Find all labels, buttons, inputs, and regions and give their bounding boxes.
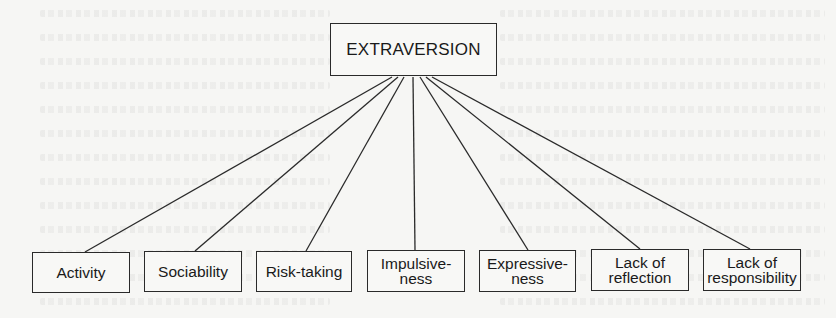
connector-line xyxy=(420,77,528,250)
child-node-impulsiveness: Impulsive- ness xyxy=(367,250,465,292)
child-node-label: Lack of reflection xyxy=(609,255,672,285)
root-node-extraversion: EXTRAVERSION xyxy=(330,23,497,76)
connector-line xyxy=(413,77,415,250)
child-node-label: Activity xyxy=(56,265,105,280)
child-node-label: Sociability xyxy=(158,264,228,279)
child-node-activity: Activity xyxy=(32,252,130,293)
child-node-label: Expressive- ness xyxy=(487,256,568,286)
connector-line xyxy=(426,77,640,249)
connector-line xyxy=(306,77,404,251)
child-node-risk-taking: Risk-taking xyxy=(256,251,352,292)
child-node-label: Lack of responsibility xyxy=(707,255,797,285)
connector-line xyxy=(85,77,392,252)
child-node-lack-of-responsibility: Lack of responsibility xyxy=(703,249,801,291)
child-node-expressiveness: Expressive- ness xyxy=(479,250,576,292)
child-node-label: Impulsive- ness xyxy=(381,256,452,286)
child-node-sociability: Sociability xyxy=(144,251,242,292)
root-node-label: EXTRAVERSION xyxy=(346,40,480,60)
child-node-lack-of-reflection: Lack of reflection xyxy=(591,249,689,291)
connector-line xyxy=(195,77,398,251)
child-node-label: Risk-taking xyxy=(266,264,343,279)
connector-line xyxy=(432,77,750,249)
